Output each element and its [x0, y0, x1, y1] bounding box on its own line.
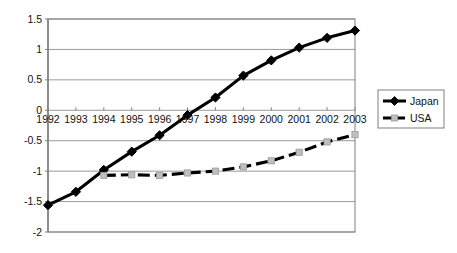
xtick-label: 1993 — [64, 113, 88, 125]
xtick-label: 1992 — [36, 113, 60, 125]
chart-container: 1.510.50-0.5-1-1.5-219921993199419951996… — [0, 0, 457, 253]
xtick-label: 1998 — [204, 113, 228, 125]
xtick-label: 1994 — [92, 113, 116, 125]
xtick-label: 1997 — [176, 113, 200, 125]
xtick-label: 1996 — [148, 113, 172, 125]
ytick-label: -0.5 — [24, 134, 42, 146]
data-point-marker — [324, 139, 330, 145]
legend-label: USA — [410, 112, 432, 124]
xtick-label: 2000 — [260, 113, 284, 125]
legend: JapanUSA — [378, 90, 444, 128]
ytick-label: 1.5 — [27, 13, 42, 25]
ytick-label: -1 — [33, 165, 42, 177]
xtick-label: 2002 — [315, 113, 339, 125]
xtick-label: 1995 — [120, 113, 144, 125]
data-point-marker — [296, 149, 302, 155]
data-point-marker — [157, 172, 163, 178]
data-point-marker — [212, 168, 218, 174]
data-point-marker — [101, 172, 107, 178]
ytick-label: -2 — [33, 226, 42, 238]
data-point-marker — [268, 158, 274, 164]
data-point-marker — [129, 172, 135, 178]
xtick-label: 2003 — [343, 113, 367, 125]
ytick-label: -1.5 — [24, 195, 42, 207]
legend-marker — [392, 115, 398, 121]
ytick-label: 0.5 — [27, 73, 42, 85]
data-point-marker — [184, 170, 190, 176]
legend-label: Japan — [410, 95, 439, 107]
xtick-label: 1999 — [232, 113, 256, 125]
data-point-marker — [352, 132, 358, 138]
xtick-label: 2001 — [288, 113, 312, 125]
line-chart: 1.510.50-0.5-1-1.5-219921993199419951996… — [0, 0, 457, 253]
data-point-marker — [240, 164, 246, 170]
ytick-label: 1 — [36, 43, 42, 55]
